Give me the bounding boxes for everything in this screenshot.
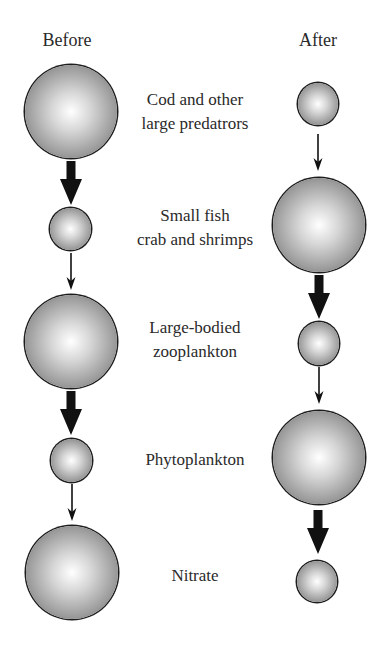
level-label-predators: Cod and other large predatrors bbox=[110, 88, 280, 136]
after-thick-arrow-down-icon bbox=[307, 275, 331, 320]
label-line: Phytoplankton bbox=[110, 448, 280, 472]
before-thin-arrow-down-icon bbox=[65, 253, 77, 291]
after-sphere-nitrate bbox=[297, 561, 337, 602]
after-thin-arrow-down-icon bbox=[313, 367, 325, 405]
after-sphere-zooplankton bbox=[299, 322, 339, 365]
after-heading: After bbox=[268, 30, 368, 50]
label-line: crab and shrimps bbox=[110, 228, 280, 252]
before-heading: Before bbox=[17, 30, 117, 50]
label-line: zooplankton bbox=[110, 340, 280, 364]
level-label-zooplankton: Large-bodied zooplankton bbox=[110, 316, 280, 364]
before-sphere-zooplankton bbox=[25, 295, 117, 388]
after-sphere-phytoplankton bbox=[273, 411, 365, 504]
level-label-small-fish: Small fish crab and shrimps bbox=[110, 204, 280, 252]
before-thin-arrow-down-icon bbox=[66, 484, 78, 522]
before-thick-arrow-down-icon bbox=[59, 391, 83, 436]
label-line: Large-bodied bbox=[110, 316, 280, 340]
after-thick-arrow-down-icon bbox=[306, 510, 330, 555]
before-sphere-small-fish bbox=[50, 208, 91, 250]
before-sphere-predators bbox=[25, 65, 117, 158]
label-line: Nitrate bbox=[110, 564, 280, 588]
label-line: Small fish bbox=[110, 204, 280, 228]
before-sphere-nitrate bbox=[26, 526, 118, 619]
label-line: Cod and other bbox=[110, 88, 280, 112]
after-sphere-small-fish bbox=[273, 178, 365, 272]
level-label-phytoplankton: Phytoplankton bbox=[110, 448, 280, 472]
before-sphere-phytoplankton bbox=[51, 439, 92, 482]
after-thin-arrow-down-icon bbox=[312, 134, 324, 172]
label-line: large predatrors bbox=[110, 112, 280, 136]
before-thick-arrow-down-icon bbox=[59, 161, 83, 206]
level-label-nitrate: Nitrate bbox=[110, 564, 280, 588]
after-sphere-predators bbox=[298, 83, 338, 125]
